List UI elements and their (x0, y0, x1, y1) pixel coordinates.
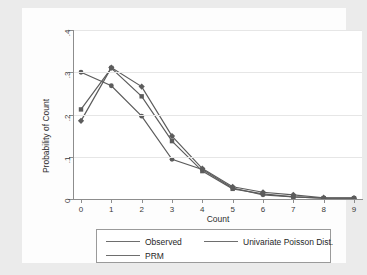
chart-figure: Probability of Count 0.1.2.3.4 012345678… (0, 0, 367, 275)
legend-item-prm[interactable]: PRM (106, 249, 164, 262)
x-axis-tick-label: 1 (101, 205, 121, 214)
x-axis-label: Count (73, 214, 363, 224)
legend-key-univariate-poisson (204, 236, 238, 247)
x-axis-tick (233, 199, 234, 203)
x-axis-tick-label: 2 (132, 205, 152, 214)
x-axis-tick-label: 3 (162, 205, 182, 214)
square-marker-icon (170, 139, 174, 143)
legend-label-prm: PRM (145, 251, 164, 261)
x-axis-tick-label: 4 (192, 205, 212, 214)
legend-item-univariate-poisson[interactable]: Univariate Poisson Dist. (204, 235, 333, 248)
x-axis-tick-label: 0 (71, 205, 91, 214)
square-marker-icon (139, 94, 143, 98)
x-axis-tick (293, 199, 294, 203)
gridline (73, 30, 362, 31)
y-axis-tick-label: .2 (63, 114, 72, 154)
legend-label-univariate-poisson: Univariate Poisson Dist. (243, 237, 333, 247)
circle-marker-icon (109, 83, 114, 88)
series-line (81, 72, 354, 198)
x-axis-tick (142, 199, 143, 203)
diamond-marker-icon (139, 84, 145, 90)
x-axis-tick (111, 199, 112, 203)
gridline (73, 157, 362, 158)
y-axis-tick-label: .1 (63, 156, 72, 196)
chart-card: Probability of Count 0.1.2.3.4 012345678… (22, 8, 346, 263)
x-axis-tick (263, 199, 264, 203)
legend-label-observed: Observed (145, 237, 182, 247)
square-marker-icon (79, 107, 83, 111)
x-axis-tick-label: 7 (283, 205, 303, 214)
x-axis-tick (172, 199, 173, 203)
y-axis-label: Probability of Count (41, 98, 51, 172)
x-axis-line (73, 199, 363, 200)
x-axis-tick-label: 9 (344, 205, 364, 214)
x-axis-tick (324, 199, 325, 203)
x-axis-tick-label: 5 (223, 205, 243, 214)
y-axis-tick-label: .3 (63, 72, 72, 112)
legend-key-prm (106, 250, 140, 261)
y-axis-tick-label: .4 (63, 30, 72, 70)
gridline (73, 72, 362, 73)
legend-key-observed (106, 236, 140, 247)
gridline (73, 115, 362, 116)
x-axis-tick (354, 199, 355, 203)
diamond-marker-icon (78, 118, 84, 124)
plot-area (73, 30, 362, 199)
x-axis-tick-label: 8 (314, 205, 334, 214)
legend-item-observed[interactable]: Observed (106, 235, 182, 248)
chart-legend: Observed Univariate Poisson Dist. PRM (96, 229, 331, 263)
x-axis-tick (202, 199, 203, 203)
y-axis-line (73, 30, 74, 200)
x-axis-tick-label: 6 (253, 205, 273, 214)
x-axis-tick (81, 199, 82, 203)
